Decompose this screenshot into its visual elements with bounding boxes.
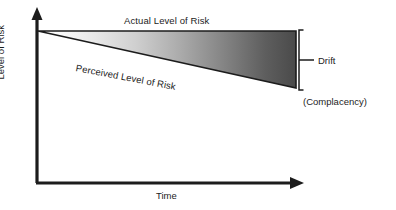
x-axis-label: Time (156, 190, 177, 201)
risk-drift-diagram: Actual Level of Risk Perceived Level of … (0, 0, 396, 210)
complacency-label: (Complacency) (303, 96, 367, 107)
x-axis-arrow-icon (290, 177, 304, 189)
y-axis-label: Level of Risk (0, 25, 6, 97)
actual-level-of-risk-label: Actual Level of Risk (124, 15, 209, 26)
drift-label: Drift (318, 55, 335, 66)
y-axis-arrow-icon (32, 7, 43, 20)
